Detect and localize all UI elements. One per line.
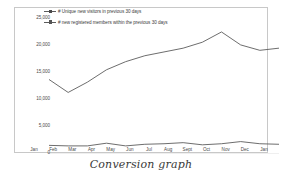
x-axis: JanFebMarAprMayJunJulAugSeptOctNovDecJan [34, 147, 266, 157]
plot-wrapper [49, 19, 279, 155]
x-axis-tick: Jun [126, 147, 133, 153]
x-axis-tick: Jan [30, 147, 37, 153]
x-axis-tick: Nov [222, 147, 230, 153]
y-axis-tick: 5,000 [39, 123, 50, 128]
x-axis-tick: Jan [260, 147, 267, 153]
x-axis-tick: Jul [146, 147, 152, 153]
x-axis-tick: May [106, 147, 115, 153]
legend-item-visitors: # Unique new visitors in previous 30 day… [44, 9, 184, 15]
line-chart-svg [49, 19, 279, 154]
y-axis-tick: 15,000 [36, 69, 50, 74]
y-axis-tick: 10,000 [36, 96, 50, 101]
chart-figure: 25,00020,00015,00010,0005,0000 JanFebMar… [0, 0, 282, 180]
x-axis-tick: Aug [164, 147, 172, 153]
x-axis-tick: Oct [203, 147, 210, 153]
legend-marker-icon [44, 11, 56, 12]
legend-marker-icon [44, 22, 56, 23]
series-line-0 [49, 32, 279, 92]
x-axis-tick: Sept [183, 147, 192, 153]
x-axis-tick: Apr [88, 147, 95, 153]
legend-item-members: # new registered members within the prev… [44, 20, 184, 26]
x-axis-tick: Dec [241, 147, 249, 153]
x-axis-tick: Feb [49, 147, 57, 153]
plot-area [49, 19, 279, 154]
figure-caption: Conversion graph [0, 158, 282, 171]
y-axis-tick: 20,000 [36, 42, 50, 47]
series-line-1 [49, 142, 279, 146]
legend-label-members: # new registered members within the prev… [58, 20, 168, 25]
chart-legend: # Unique new visitors in previous 30 day… [44, 9, 184, 30]
x-axis-tick: Mar [68, 147, 76, 153]
legend-label-visitors: # Unique new visitors in previous 30 day… [58, 9, 141, 14]
